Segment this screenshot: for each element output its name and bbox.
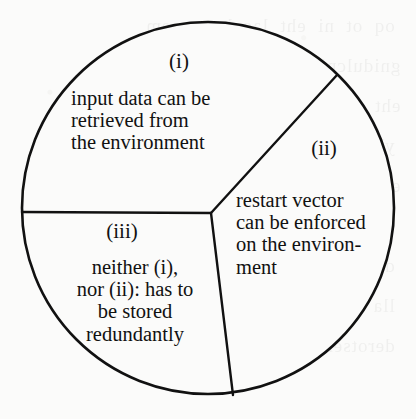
divider-left-horizontal [22, 212, 211, 213]
sector-label-iii: (iii) [93, 220, 151, 242]
sector-text-i: input data can be retrieved from the env… [71, 87, 257, 154]
sector-text-iii: neither (i), nor (ii): has to be stored … [47, 256, 223, 345]
figure-container: oq ot ni eht lacol yromem gnidulcni eht … [0, 0, 416, 419]
sector-label-ii: (ii) [299, 137, 349, 159]
sector-label-i: (i) [157, 50, 201, 72]
sector-text-ii: restart vector can be enforced on the en… [236, 189, 396, 278]
